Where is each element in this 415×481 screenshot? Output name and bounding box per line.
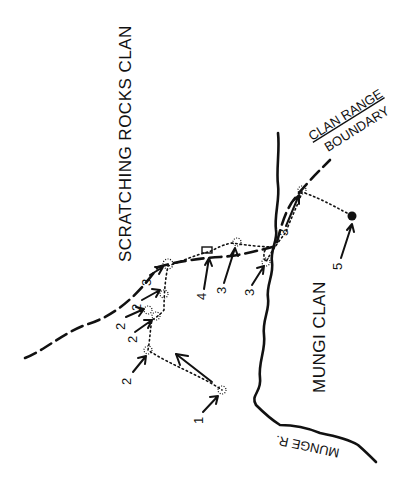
direction-arrow xyxy=(176,354,212,382)
site-number-3c: 3 xyxy=(242,289,257,296)
site-number-2a: 2 xyxy=(119,378,134,385)
clan-range-map: SCRATCHING ROCKS CLAN MUNGI CLAN CLAN RA… xyxy=(0,0,415,481)
clan-range-boundary-line xyxy=(25,160,330,358)
river-label: MUNGE R. xyxy=(274,433,341,461)
site-number-5: 5 xyxy=(330,263,345,270)
site-number-3d: 3 xyxy=(276,229,291,236)
site-number-1: 1 xyxy=(191,417,206,424)
site-number-2d: 2 xyxy=(129,304,144,311)
region-label-scratching-rocks-clan: SCRATCHING ROCKS CLAN xyxy=(116,25,135,262)
site-number-3b: 3 xyxy=(214,287,229,294)
site-number-3a: 3 xyxy=(139,279,154,286)
site-marker-2c xyxy=(144,306,152,314)
site-marker-3c xyxy=(262,258,270,266)
site-number-4: 4 xyxy=(194,293,209,300)
region-label-mungi-clan: MUNGI CLAN xyxy=(310,281,329,393)
site-number-2b: 2 xyxy=(125,336,140,343)
site-number-2c: 2 xyxy=(113,323,128,330)
site-marker-5 xyxy=(348,212,357,221)
site-marker-3b xyxy=(233,238,241,246)
